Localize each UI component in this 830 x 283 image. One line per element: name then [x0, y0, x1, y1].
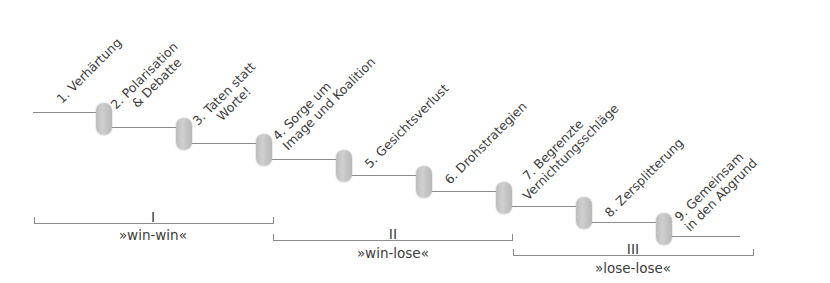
step-line-4 — [270, 159, 338, 160]
step-line-3 — [190, 143, 258, 144]
phase-label-2: »win-lose« — [357, 245, 429, 261]
phase-label-1: »win-win« — [119, 227, 187, 243]
step-marker-4 — [336, 150, 352, 182]
step-marker-5 — [416, 166, 432, 198]
phase-number-1: I — [151, 210, 155, 224]
step-line-2 — [110, 127, 178, 128]
step-marker-7 — [576, 197, 592, 229]
step-line-9 — [670, 236, 740, 237]
stage-label-5: 5. Gesichtsverlust — [362, 82, 451, 171]
step-line-1 — [33, 112, 99, 113]
step-marker-6 — [496, 182, 512, 214]
escalation-diagram: 1. Verhärtung 2. Polarisation & Debatte … — [0, 0, 830, 283]
stage-label-6: 6. Drohstrategien — [442, 99, 530, 187]
step-marker-3 — [256, 134, 272, 166]
stage-label-line: 4. Sorge um — [270, 45, 368, 143]
phase-number-2: II — [389, 227, 397, 241]
stage-label-8: 8. Zersplitterung — [602, 136, 686, 220]
stage-label-3: 3. Taten statt Worte! — [190, 60, 268, 138]
phase-label-3: »lose-lose« — [595, 260, 671, 276]
stage-label-4: 4. Sorge um Image und Koalition — [270, 45, 378, 153]
stage-label-line: 5. Gesichtsverlust — [362, 82, 451, 171]
step-line-5 — [350, 175, 418, 176]
step-line-6 — [430, 191, 498, 192]
step-marker-8 — [656, 213, 672, 245]
stage-label-line: Image und Koalition — [280, 55, 378, 153]
step-marker-2 — [176, 118, 192, 150]
stage-label-line: Vernichtungsschläge — [520, 101, 622, 203]
phase-number-3: III — [627, 242, 639, 256]
stage-label-9: 9. Gemeinsam in den Abgrund — [672, 146, 760, 234]
stage-label-line: 6. Drohstrategien — [442, 99, 530, 187]
stage-label-line: 8. Zersplitterung — [602, 136, 686, 220]
stage-label-2: 2. Polarisation & Debatte — [108, 40, 190, 122]
step-marker-1 — [96, 103, 112, 135]
step-line-8 — [590, 222, 658, 223]
step-line-7 — [510, 206, 578, 207]
